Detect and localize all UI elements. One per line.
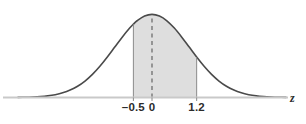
shaded-area-region: [133, 14, 196, 97]
normal-distribution-figure: –0.5 0 1.2 z: [0, 0, 306, 124]
axis-variable-label-z: z: [290, 92, 295, 104]
tick-label-upper-bound: 1.2: [188, 102, 205, 114]
tick-label-lower-bound: –0.5: [122, 102, 145, 114]
tick-label-mean: 0: [149, 102, 156, 114]
